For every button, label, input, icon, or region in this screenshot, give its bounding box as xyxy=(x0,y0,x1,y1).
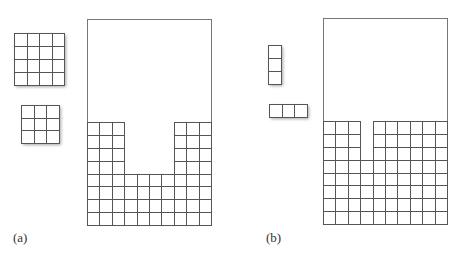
grid-cell xyxy=(174,161,187,175)
grid-cell xyxy=(335,160,348,174)
grid-cell xyxy=(124,186,137,200)
square-4x4-tile xyxy=(14,33,64,85)
tile-cell xyxy=(52,72,66,86)
grid-cell xyxy=(199,199,212,213)
grid-cell xyxy=(124,212,137,226)
grid-cell xyxy=(385,185,398,199)
grid-cell xyxy=(373,147,386,161)
grid-cell xyxy=(99,161,112,175)
tile-cell xyxy=(268,58,282,72)
grid-cell xyxy=(149,199,162,213)
grid-cell xyxy=(323,121,336,135)
grid-cell xyxy=(410,134,423,148)
grid-cell xyxy=(410,147,423,161)
tile-cell xyxy=(39,33,53,47)
grid-cell xyxy=(397,198,410,212)
grid-cell xyxy=(335,198,348,212)
panel-a-label: (a) xyxy=(13,230,27,246)
grid-cell xyxy=(323,185,336,199)
grid-cell xyxy=(186,148,199,162)
grid-cell xyxy=(112,148,125,162)
tile-cell xyxy=(34,130,48,144)
grid-cell xyxy=(323,160,336,174)
grid-cell xyxy=(174,122,187,136)
grid-cell xyxy=(174,186,187,200)
grid-cell xyxy=(422,198,435,212)
grid-cell xyxy=(174,212,187,226)
grid-cell xyxy=(112,174,125,188)
grid-cell xyxy=(335,121,348,135)
grid-cell xyxy=(422,121,435,135)
grid-cell xyxy=(124,174,137,188)
tile-cell xyxy=(39,59,53,73)
grid-cell xyxy=(348,173,361,187)
grid-cell xyxy=(373,185,386,199)
grid-cell xyxy=(87,186,100,200)
grid-cell xyxy=(99,135,112,149)
grid-cell xyxy=(199,122,212,136)
tile-cell xyxy=(52,33,66,47)
grid-cell xyxy=(186,174,199,188)
grid-cell xyxy=(385,173,398,187)
grid-cell xyxy=(397,121,410,135)
tile-cell xyxy=(46,105,60,119)
tile-cell xyxy=(268,45,282,59)
grid-cell xyxy=(435,134,448,148)
grid-cell xyxy=(335,211,348,225)
bar-vertical-1x3-tile xyxy=(268,45,281,84)
grid-cell xyxy=(186,186,199,200)
grid-cell xyxy=(99,148,112,162)
tile-cell xyxy=(39,46,53,60)
tile-cell xyxy=(268,71,282,85)
grid-cell xyxy=(435,147,448,161)
grid-cell xyxy=(397,185,410,199)
grid-cell xyxy=(435,185,448,199)
grid-cell xyxy=(348,198,361,212)
tile-cell xyxy=(14,46,28,60)
grid-cell xyxy=(385,198,398,212)
grid-cell xyxy=(99,122,112,136)
grid-cell xyxy=(410,211,423,225)
grid-cell xyxy=(87,199,100,213)
tile-cell xyxy=(14,59,28,73)
grid-cell xyxy=(422,134,435,148)
grid-cell xyxy=(87,135,100,149)
grid-cell xyxy=(186,122,199,136)
tile-cell xyxy=(34,118,48,132)
grid-cell xyxy=(137,199,150,213)
grid-cell xyxy=(435,160,448,174)
grid-cell xyxy=(186,199,199,213)
tile-cell xyxy=(52,59,66,73)
grid-cell xyxy=(199,148,212,162)
grid-cell xyxy=(373,121,386,135)
tile-cell xyxy=(39,72,53,86)
grid-cell xyxy=(397,160,410,174)
grid-cell xyxy=(99,199,112,213)
grid-cell xyxy=(397,211,410,225)
grid-cell xyxy=(348,185,361,199)
tile-cell xyxy=(46,130,60,144)
grid-cell xyxy=(422,211,435,225)
tile-cell xyxy=(282,104,296,118)
grid-cell xyxy=(348,134,361,148)
grid-cell xyxy=(87,161,100,175)
grid-cell xyxy=(112,161,125,175)
grid-cell xyxy=(360,185,373,199)
grid-cell xyxy=(199,174,212,188)
grid-cell xyxy=(385,121,398,135)
grid-cell xyxy=(323,134,336,148)
grid-cell xyxy=(137,174,150,188)
grid-cell xyxy=(385,160,398,174)
grid-cell xyxy=(335,134,348,148)
grid-cell xyxy=(335,173,348,187)
tile-cell xyxy=(294,104,308,118)
grid-cell xyxy=(99,174,112,188)
grid-cell xyxy=(410,173,423,187)
grid-cell xyxy=(174,199,187,213)
tile-cell xyxy=(21,118,35,132)
grid-cell xyxy=(161,174,174,188)
grid-cell xyxy=(373,134,386,148)
grid-cell xyxy=(422,173,435,187)
grid-cell xyxy=(186,161,199,175)
grid-cell xyxy=(435,121,448,135)
